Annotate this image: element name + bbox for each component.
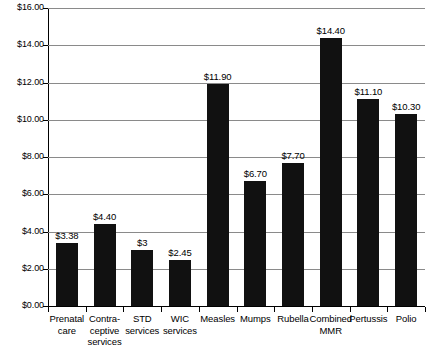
bar-value-label: $6.70 bbox=[225, 169, 285, 179]
x-tick-mark bbox=[350, 307, 351, 312]
bar-value-label: $4.40 bbox=[75, 212, 135, 222]
x-tick-mark bbox=[274, 307, 275, 312]
y-tick-label: $8.00 bbox=[0, 152, 44, 161]
bar-value-label: $14.40 bbox=[301, 26, 361, 36]
bar-value-label: $10.30 bbox=[376, 102, 435, 112]
y-tick-label: $14.00 bbox=[0, 40, 44, 49]
gridline-16 bbox=[48, 8, 425, 9]
y-tick-label: $0.00 bbox=[0, 301, 44, 310]
x-tick-mark bbox=[237, 307, 238, 312]
x-cat-label-line: services bbox=[77, 336, 133, 348]
y-tick-label: $2.00 bbox=[0, 264, 44, 273]
x-tick-mark bbox=[161, 307, 162, 312]
x-cat-label-line: MMR bbox=[303, 325, 359, 337]
x-cat-label-line: Polio bbox=[378, 313, 434, 325]
bar[interactable] bbox=[94, 224, 116, 306]
bar-value-label: $7.70 bbox=[263, 151, 323, 161]
x-category-label: Polio bbox=[378, 313, 434, 325]
bar-value-label: $3.38 bbox=[37, 231, 97, 241]
x-tick-mark bbox=[199, 307, 200, 312]
y-tick-label: $6.00 bbox=[0, 189, 44, 198]
bar-value-label: $11.10 bbox=[338, 87, 398, 97]
plot-area: $3.38$4.40$3$2.45$11.90$6.70$7.70$14.40$… bbox=[48, 8, 425, 306]
x-tick-mark bbox=[86, 307, 87, 312]
y-tick-label: $12.00 bbox=[0, 78, 44, 87]
gridline-12 bbox=[48, 83, 425, 84]
bar[interactable] bbox=[207, 84, 229, 306]
bar-value-label: $2.45 bbox=[150, 248, 210, 258]
x-cat-label-line: services bbox=[152, 325, 208, 337]
bar[interactable] bbox=[169, 260, 191, 306]
x-tick-mark bbox=[48, 307, 49, 312]
bar[interactable] bbox=[56, 243, 78, 306]
bar[interactable] bbox=[320, 38, 342, 306]
x-tick-mark bbox=[123, 307, 124, 312]
y-tick-label: $16.00 bbox=[0, 3, 44, 12]
x-tick-mark bbox=[312, 307, 313, 312]
bar[interactable] bbox=[357, 99, 379, 306]
gridline-14 bbox=[48, 45, 425, 46]
x-tick-mark bbox=[387, 307, 388, 312]
bar[interactable] bbox=[395, 114, 417, 306]
bar[interactable] bbox=[131, 250, 153, 306]
bar-chart: $16.00$14.00$12.00$10.00$8.00$6.00$4.00$… bbox=[0, 0, 435, 355]
x-tick-mark bbox=[425, 307, 426, 312]
bar-value-label: $11.90 bbox=[188, 72, 248, 82]
bar-value-label: $3 bbox=[112, 238, 172, 248]
y-tick-label: $10.00 bbox=[0, 115, 44, 124]
bar[interactable] bbox=[244, 181, 266, 306]
bar[interactable] bbox=[282, 163, 304, 306]
